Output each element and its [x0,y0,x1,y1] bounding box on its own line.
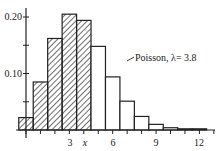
x-variable-label: x [82,137,88,148]
y-tick-0.10: 0.10 [5,68,23,79]
bar-1 [33,82,47,130]
x-tick-6: 6 [111,137,116,148]
bar-9 [149,124,163,130]
bar-2 [48,38,62,130]
bar-5 [91,46,105,130]
bar-4 [77,20,91,130]
bar-3 [62,14,76,130]
x-tick-9: 9 [154,137,159,148]
x-tick-12: 12 [194,137,204,148]
annotation-label: Poisson, λ= 3.8 [135,52,197,63]
y-tick-0.20: 0.20 [5,11,23,22]
bar-8 [134,116,148,130]
x-tick-3: 3 [68,137,73,148]
bar-6 [105,77,119,130]
bar-7 [120,101,134,130]
poisson-histogram: 0.20 0.10 3 x 6 9 12 Poisson, λ= 3.8 [0,0,219,151]
annotation-leader [127,57,134,61]
bars [19,14,207,130]
